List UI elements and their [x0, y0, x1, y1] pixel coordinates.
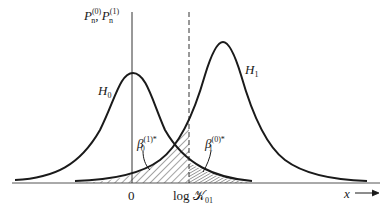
y-axis-label: P(0)n, P(1)n: [84, 8, 113, 25]
x-tick-zero: 0: [128, 189, 135, 202]
x-tick-threshold: log 𝒦01: [173, 189, 213, 205]
beta1-label: β(0)*1: [205, 136, 213, 153]
beta0-label: β(1)*0: [137, 136, 145, 153]
beta1-pointer: [203, 151, 211, 172]
h0-label: H0: [98, 84, 111, 100]
beta0-region: [75, 42, 223, 183]
x-axis-label: x: [344, 187, 350, 200]
h1-curve: [75, 42, 367, 181]
diagram-canvas: [0, 0, 392, 209]
x-arrowhead: [372, 190, 379, 196]
h0-curve: [15, 73, 252, 181]
h1-label: H1: [245, 63, 258, 79]
